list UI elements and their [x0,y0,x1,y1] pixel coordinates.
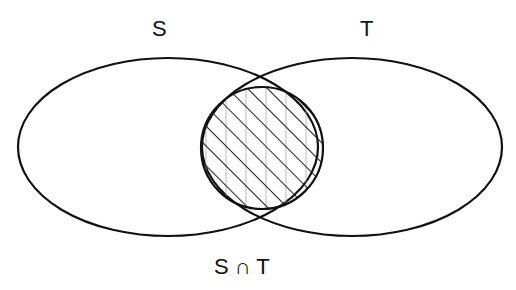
intersection-hatch [201,87,323,209]
set-s-label: S [152,18,167,40]
set-t-label: T [360,18,373,40]
venn-diagram [0,0,516,290]
intersection-label: S ∩ T [214,256,270,278]
